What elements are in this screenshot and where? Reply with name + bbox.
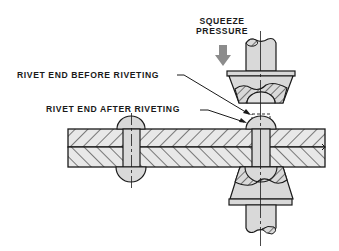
upper-squeeze-die <box>227 39 295 104</box>
upper-die-lip <box>227 71 295 76</box>
leader-arrowhead-after <box>239 118 247 123</box>
lower-squeeze-die <box>229 167 293 234</box>
lower-sheet <box>68 147 325 167</box>
upper-sheet <box>68 129 325 147</box>
leader-rivet-after <box>200 110 244 122</box>
lower-die-stem-break <box>262 226 276 234</box>
rivet-before-label: RIVET END BEFORE RIVETING <box>17 71 159 80</box>
squeeze-label-line2: PRESSURE <box>196 27 248 37</box>
riveted-sheets <box>68 129 325 167</box>
squeeze-pressure-label: SQUEEZE PRESSURE <box>196 17 248 37</box>
rivet-after-label: RIVET END AFTER RIVETING <box>46 105 180 114</box>
riveting-diagram <box>0 0 339 251</box>
rivet-bottom-head <box>116 167 146 182</box>
rivet-shank <box>252 129 270 167</box>
rivet-formed-head <box>246 116 276 129</box>
upper-die-stem-break <box>246 39 258 46</box>
rivet-top-head <box>117 116 145 129</box>
leader-arrowhead-before <box>243 109 251 115</box>
pressure-arrow-icon <box>215 45 231 66</box>
